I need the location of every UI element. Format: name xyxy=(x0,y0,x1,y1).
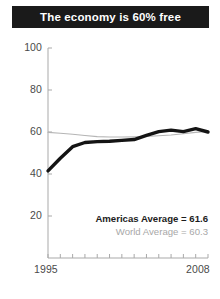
chart-figure: The economy is 60% free 100 80 60 40 20 … xyxy=(0,0,220,299)
chart-legend: Americas Average = 61.6 World Average = … xyxy=(58,213,208,238)
series-group xyxy=(48,129,208,171)
legend-item-world-average: World Average = 60.3 xyxy=(58,226,208,239)
x-axis-tick-label-start: 1995 xyxy=(34,263,58,275)
plot-area: 100 80 60 40 20 1995 2008 Americas Avera… xyxy=(0,32,220,299)
y-axis-tick-label: 40 xyxy=(12,167,42,179)
x-axis-tick-label-end: 2008 xyxy=(186,263,210,275)
series-line-americas-average xyxy=(48,129,208,171)
y-axis-tick-label: 20 xyxy=(12,209,42,221)
legend-item-americas-average: Americas Average = 61.6 xyxy=(58,213,208,226)
y-axis-tick-label: 80 xyxy=(12,83,42,95)
y-axis-tick-label: 100 xyxy=(12,41,42,53)
line-chart-canvas xyxy=(0,32,220,299)
page-title: The economy is 60% free xyxy=(40,11,181,23)
chart-title-banner: The economy is 60% free xyxy=(12,6,209,28)
y-axis-tick-label: 60 xyxy=(12,125,42,137)
